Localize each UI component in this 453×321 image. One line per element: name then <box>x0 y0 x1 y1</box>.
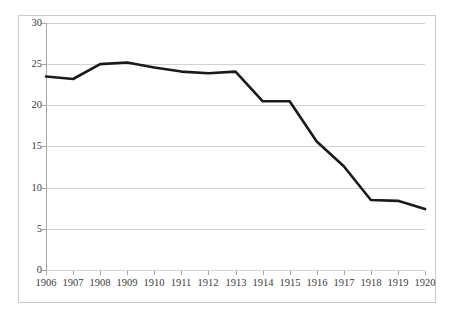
gridline-15 <box>46 146 425 147</box>
x-axis-label-1915: 1915 <box>277 278 303 289</box>
x-tick-mark-1917 <box>344 271 345 275</box>
x-tick-mark-1911 <box>181 271 182 275</box>
y-tick-mark-15 <box>42 146 46 147</box>
x-axis-label-1909: 1909 <box>114 278 140 289</box>
x-axis-label-1914: 1914 <box>250 278 276 289</box>
x-tick-mark-1914 <box>263 271 264 275</box>
gridline-5 <box>46 229 425 230</box>
x-tick-mark-1909 <box>127 271 128 275</box>
x-axis-label-1906: 1906 <box>33 278 59 289</box>
plot-area <box>46 23 425 270</box>
x-tick-mark-1918 <box>371 271 372 275</box>
y-axis-label-30: 30 <box>12 18 42 29</box>
x-tick-mark-1916 <box>317 271 318 275</box>
gridline-20 <box>46 105 425 106</box>
x-tick-mark-1915 <box>290 271 291 275</box>
x-axis-label-1913: 1913 <box>223 278 249 289</box>
x-tick-mark-1913 <box>236 271 237 275</box>
x-axis-label-1907: 1907 <box>60 278 86 289</box>
x-axis-label-1910: 1910 <box>141 278 167 289</box>
gridline-30 <box>46 23 425 24</box>
y-axis-label-5: 5 <box>12 224 42 235</box>
y-axis-labels: 30 25 20 15 10 5 0 <box>4 0 42 321</box>
y-tick-mark-10 <box>42 188 46 189</box>
y-tick-mark-5 <box>42 229 46 230</box>
x-axis-label-1916: 1916 <box>304 278 330 289</box>
x-tick-mark-1912 <box>208 271 209 275</box>
x-axis-label-1911: 1911 <box>168 278 194 289</box>
line-chart-figure: 30 25 20 15 10 5 0 1906 1907 1908 1909 1… <box>0 0 453 321</box>
y-axis-label-0: 0 <box>12 265 42 276</box>
x-tick-mark-1906 <box>46 271 47 275</box>
x-tick-mark-1919 <box>398 271 399 275</box>
y-axis-label-20: 20 <box>12 100 42 111</box>
y-axis-label-25: 25 <box>12 59 42 70</box>
x-axis-label-1919: 1919 <box>385 278 411 289</box>
x-tick-mark-1920 <box>425 271 426 275</box>
y-tick-mark-30 <box>42 23 46 24</box>
x-axis-label-1918: 1918 <box>358 278 384 289</box>
x-tick-mark-1910 <box>154 271 155 275</box>
y-tick-mark-25 <box>42 64 46 65</box>
x-axis-label-1920: 1920 <box>412 278 438 289</box>
y-axis-label-15: 15 <box>12 141 42 152</box>
x-tick-mark-1907 <box>73 271 74 275</box>
y-axis-line <box>46 23 47 271</box>
x-axis-label-1917: 1917 <box>331 278 357 289</box>
gridline-10 <box>46 188 425 189</box>
x-tick-mark-1908 <box>100 271 101 275</box>
y-axis-label-10: 10 <box>12 183 42 194</box>
y-tick-mark-20 <box>42 105 46 106</box>
x-axis-label-1908: 1908 <box>87 278 113 289</box>
gridline-25 <box>46 64 425 65</box>
x-axis-label-1912: 1912 <box>195 278 221 289</box>
